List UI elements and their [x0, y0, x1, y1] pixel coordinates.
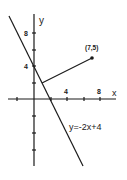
x-axis-label: x [112, 88, 117, 98]
line-y-eq-neg2x-plus4 [9, 16, 83, 166]
x-tick-label-4: 4 [64, 88, 68, 95]
point-label: (7,5) [85, 44, 98, 52]
y-axis-label: y [39, 15, 44, 26]
y-tick-label-8: 8 [24, 30, 28, 37]
perpendicular-segment [42, 58, 92, 83]
coordinate-diagram: 8 4 4 8 y x (7,5) y=-2x+4 [0, 0, 127, 180]
x-tick-label-8: 8 [97, 88, 101, 95]
point-7-5 [90, 56, 94, 60]
y-tick-label-4: 4 [24, 63, 28, 70]
equation-label: y=-2x+4 [69, 122, 102, 132]
